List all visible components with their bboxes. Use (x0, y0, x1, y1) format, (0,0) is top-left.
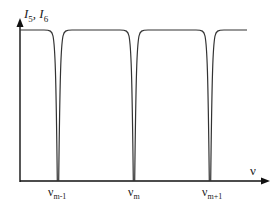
intensity-curve (20, 30, 247, 181)
tick-label-nu-m: νm (128, 185, 140, 201)
y-axis (17, 18, 24, 182)
y-axis-arrow-icon (17, 18, 24, 27)
tick-label-nu-m-plus-1: νm+1 (202, 185, 222, 201)
y-axis-label: I5, I6 (24, 6, 48, 24)
x-axis-arrow-icon (261, 178, 270, 185)
x-axis-label: ν (250, 163, 256, 179)
diagram-canvas (0, 0, 279, 212)
tick-label-nu-m-1: νm-1 (48, 185, 66, 201)
